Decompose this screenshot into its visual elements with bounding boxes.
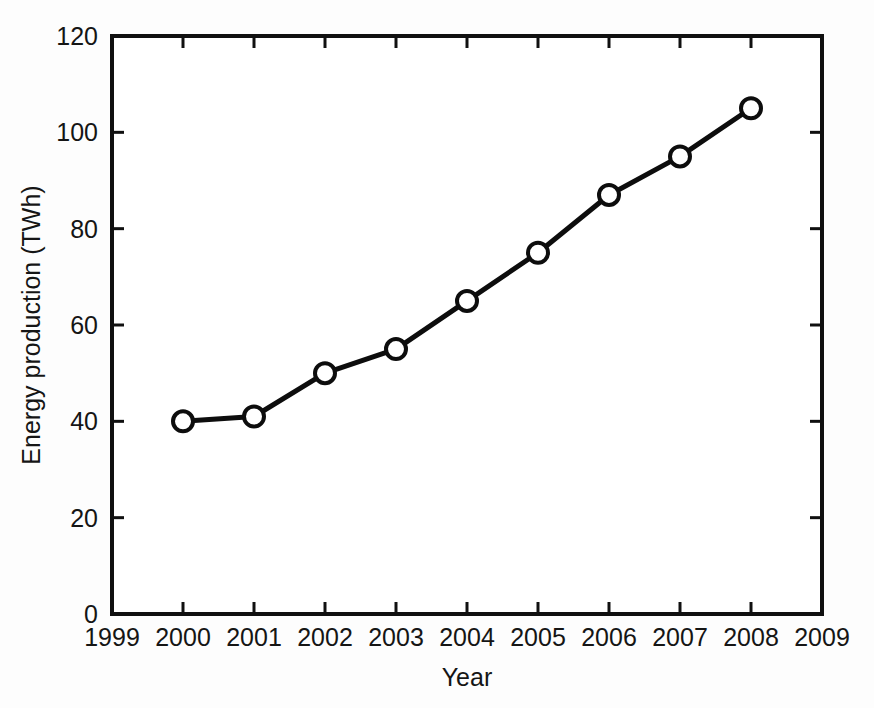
plot-area-background bbox=[112, 36, 822, 614]
data-point-marker bbox=[670, 146, 690, 166]
data-point-marker bbox=[741, 98, 761, 118]
y-tick-label: 40 bbox=[70, 407, 98, 435]
x-tick-label: 2002 bbox=[297, 623, 353, 651]
y-axis-title: Energy production (TWh) bbox=[17, 185, 45, 464]
data-point-marker bbox=[457, 291, 477, 311]
data-point-marker bbox=[244, 407, 264, 427]
x-tick-label: 2004 bbox=[439, 623, 495, 651]
data-point-marker bbox=[173, 411, 193, 431]
figure-canvas: 1999200020012002200320042005200620072008… bbox=[0, 0, 874, 708]
x-tick-label: 2005 bbox=[510, 623, 566, 651]
x-axis-tick-labels: 1999200020012002200320042005200620072008… bbox=[84, 623, 850, 651]
y-tick-label: 80 bbox=[70, 215, 98, 243]
y-tick-label: 100 bbox=[56, 118, 98, 146]
x-tick-label: 2003 bbox=[368, 623, 424, 651]
x-tick-label: 2000 bbox=[155, 623, 211, 651]
x-tick-label: 2001 bbox=[226, 623, 282, 651]
data-point-marker bbox=[386, 339, 406, 359]
data-point-marker bbox=[315, 363, 335, 383]
x-tick-label: 2008 bbox=[723, 623, 779, 651]
x-tick-label: 2006 bbox=[581, 623, 637, 651]
x-axis-title: Year bbox=[442, 663, 493, 691]
data-point-marker bbox=[528, 243, 548, 263]
y-tick-label: 0 bbox=[84, 600, 98, 628]
y-tick-label: 60 bbox=[70, 311, 98, 339]
data-point-marker bbox=[599, 185, 619, 205]
y-tick-label: 20 bbox=[70, 504, 98, 532]
x-tick-label: 2009 bbox=[794, 623, 850, 651]
x-tick-label: 2007 bbox=[652, 623, 708, 651]
line-chart: 1999200020012002200320042005200620072008… bbox=[0, 0, 874, 708]
y-tick-label: 120 bbox=[56, 22, 98, 50]
